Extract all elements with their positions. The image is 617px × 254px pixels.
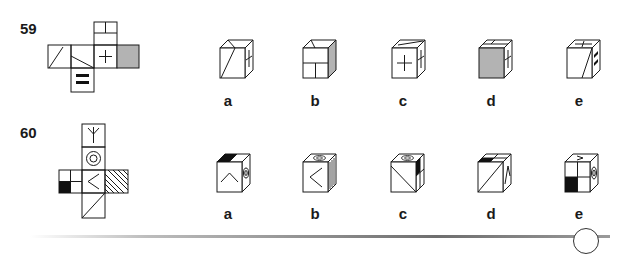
- question-number: 60: [20, 124, 37, 141]
- cube-option-59e[interactable]: [565, 38, 605, 80]
- cube-option-59a[interactable]: [218, 38, 258, 80]
- cube-net-60: [55, 122, 135, 222]
- option-label: d: [481, 92, 501, 109]
- option-label: e: [569, 205, 589, 222]
- option-label: a: [218, 92, 238, 109]
- cube-option-59d[interactable]: [477, 38, 517, 80]
- option-label: e: [569, 92, 589, 109]
- cube-option-59c[interactable]: [390, 38, 430, 80]
- cube-option-60a[interactable]: [215, 152, 255, 194]
- page-number-circle: [573, 228, 599, 254]
- cube-option-60e[interactable]: [563, 152, 603, 194]
- option-label: c: [393, 92, 413, 109]
- option-label: b: [305, 205, 325, 222]
- question-number: 59: [20, 20, 37, 37]
- option-label: d: [481, 205, 501, 222]
- cube-option-59b[interactable]: [301, 38, 341, 80]
- option-label: a: [218, 205, 238, 222]
- page-bottom-rule: [30, 235, 610, 238]
- cube-option-60c[interactable]: [389, 152, 429, 194]
- option-label: b: [305, 92, 325, 109]
- option-label: c: [393, 205, 413, 222]
- cube-net-59: [45, 20, 145, 95]
- cube-option-60d[interactable]: [476, 152, 516, 194]
- cube-option-60b[interactable]: [301, 152, 341, 194]
